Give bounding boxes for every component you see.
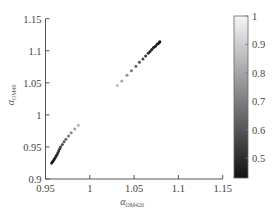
colorbar-tick-label: 0.8 bbox=[252, 68, 265, 79]
y-tick-label: 1.15 bbox=[23, 14, 41, 25]
y-axis-title-subscript: OM40 bbox=[11, 84, 17, 100]
data-point bbox=[126, 74, 129, 77]
y-tick-label: 0.9 bbox=[28, 174, 41, 185]
plot-axes: 0.9511.051.11.150.90.9511.051.11.15 bbox=[23, 14, 232, 194]
y-tick-label: 0.95 bbox=[23, 142, 41, 153]
data-point bbox=[158, 40, 161, 43]
data-point bbox=[130, 69, 133, 72]
y-tick-label: 1 bbox=[36, 110, 41, 121]
data-point bbox=[63, 140, 66, 143]
colorbar-tick-label: 0.7 bbox=[252, 96, 265, 107]
data-point bbox=[116, 84, 119, 87]
data-point bbox=[70, 131, 73, 134]
x-tick-label: 1 bbox=[87, 183, 92, 194]
y-axis-title: αOM40 bbox=[5, 84, 17, 105]
x-axis-title-subscript: OM420 bbox=[125, 202, 144, 208]
data-point bbox=[61, 143, 64, 146]
x-axis-title: αOM420 bbox=[120, 196, 144, 208]
data-point bbox=[144, 54, 147, 57]
colorbar-tick-label: 0.9 bbox=[252, 39, 265, 50]
data-point bbox=[73, 127, 76, 130]
colorbar-tick-label: 0.5 bbox=[252, 153, 265, 164]
x-tick-label: 1.15 bbox=[214, 183, 232, 194]
scatter-chart: 0.9511.051.11.150.90.9511.051.11.15 0.50… bbox=[0, 0, 274, 214]
x-tick-label: 1.1 bbox=[172, 183, 185, 194]
data-point bbox=[77, 124, 80, 127]
y-tick-label: 1.1 bbox=[28, 46, 41, 57]
x-tick-label: 1.05 bbox=[125, 183, 143, 194]
data-point bbox=[67, 135, 70, 138]
y-tick-label: 1.05 bbox=[23, 78, 41, 89]
data-point bbox=[134, 65, 137, 68]
colorbar: 0.50.60.70.80.91 bbox=[234, 11, 265, 178]
data-point bbox=[141, 58, 144, 61]
data-point bbox=[59, 145, 62, 148]
colorbar-tick-label: 1 bbox=[252, 11, 257, 22]
data-point bbox=[120, 79, 123, 82]
data-point bbox=[138, 61, 141, 64]
data-points bbox=[50, 40, 161, 164]
colorbar-tick-label: 0.6 bbox=[252, 125, 265, 136]
data-point bbox=[64, 138, 67, 141]
colorbar-gradient bbox=[234, 16, 248, 178]
